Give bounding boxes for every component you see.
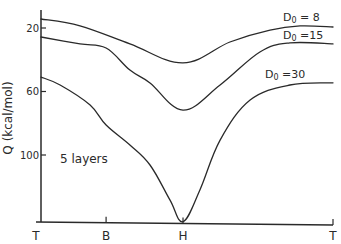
y-tick-label-100: 100 [20, 150, 39, 161]
curve-d0-30 [41, 77, 333, 222]
chart: 2060100 TBHT D0 = 8D0 =15D0 =30 Q (kcal/… [0, 0, 341, 244]
x-tick-label-T-3: T [328, 229, 337, 243]
curves [41, 19, 333, 222]
series-label-d0-30: D0 =30 [265, 68, 305, 82]
y-ticks: 2060100 [20, 23, 46, 161]
series-labels: D0 = 8D0 =15D0 =30 [265, 11, 323, 82]
axes [36, 10, 333, 225]
y-axis-label: Q (kcal/mol) [1, 81, 15, 154]
series-label-d0-15: D0 =15 [283, 29, 323, 43]
x-tick-label-T-0: T [31, 229, 40, 243]
x-tick-label-B-1: B [102, 229, 110, 243]
annotation-5-layers: 5 layers [60, 152, 108, 166]
x-axis [36, 222, 333, 225]
y-tick-label-20: 20 [26, 23, 39, 34]
y-tick-label-60: 60 [26, 86, 39, 97]
x-tick-label-H-2: H [178, 229, 187, 243]
series-label-d0-8: D0 = 8 [283, 11, 320, 25]
